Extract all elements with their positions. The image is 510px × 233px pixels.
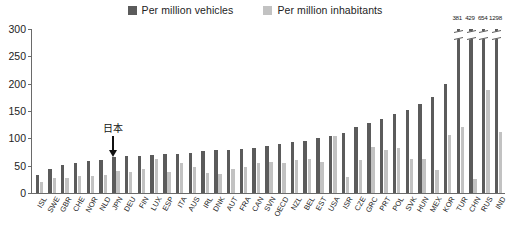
bar-vehicles xyxy=(329,136,332,193)
bar-inhabitants xyxy=(359,160,362,193)
bar-vehicles xyxy=(278,144,281,193)
bar-inhabitants xyxy=(257,163,260,193)
bar-group xyxy=(97,29,110,193)
bar-vehicles xyxy=(252,148,255,193)
plot-area xyxy=(31,29,505,193)
axis-break-mark xyxy=(492,30,501,40)
y-axis-tick-label: 50 xyxy=(0,160,26,172)
y-axis-tick-label: 200 xyxy=(0,78,26,90)
bar-inhabitants xyxy=(244,167,247,193)
bar-group xyxy=(122,29,135,193)
x-axis-tick-label: NLD xyxy=(97,195,112,213)
bar-group xyxy=(237,29,250,193)
bar-inhabitants xyxy=(486,90,489,193)
bar-inhabitants xyxy=(193,167,196,193)
down-arrow-icon xyxy=(109,136,117,157)
overflow-value-label: 1298 xyxy=(485,14,507,21)
bar-group xyxy=(33,29,46,193)
bar-inhabitants xyxy=(116,171,119,193)
x-axis-tick-label: HUN xyxy=(415,195,431,214)
y-axis-tick-label: 300 xyxy=(0,23,26,35)
bar-inhabitants xyxy=(91,176,94,193)
bar-inhabitants xyxy=(346,177,349,193)
x-axis-tick-label: EST xyxy=(314,195,329,212)
bar-inhabitants xyxy=(397,148,400,193)
bar-group xyxy=(416,29,429,193)
bar-group xyxy=(492,29,505,193)
bar-vehicles xyxy=(495,29,498,193)
bar-group xyxy=(71,29,84,193)
x-axis-tick-label: PRT xyxy=(378,195,393,212)
x-axis-tick-label: RUS xyxy=(479,195,495,213)
bar-vehicles xyxy=(469,29,472,193)
bar-group xyxy=(199,29,212,193)
bar-vehicles xyxy=(150,155,153,193)
bar-vehicles xyxy=(354,127,357,193)
bar-vehicles xyxy=(265,146,268,193)
bar-vehicles xyxy=(482,29,485,193)
bar-inhabitants xyxy=(65,178,68,193)
bar-vehicles xyxy=(316,138,319,193)
x-axis-tick-label: BEL xyxy=(302,195,317,212)
bar-inhabitants xyxy=(269,162,272,193)
legend-label-vehicles: Per million vehicles xyxy=(142,4,234,16)
bar-inhabitants xyxy=(473,179,476,193)
axis-break-mark xyxy=(467,30,476,40)
bar-vehicles xyxy=(189,153,192,193)
bar-group xyxy=(250,29,263,193)
bar-vehicles xyxy=(36,175,39,193)
bar-vehicles xyxy=(457,29,460,193)
bar-group xyxy=(186,29,199,193)
x-axis-tick-label: NOR xyxy=(83,195,99,214)
bar-group xyxy=(288,29,301,193)
bar-inhabitants xyxy=(384,150,387,193)
legend-item-vehicles: Per million vehicles xyxy=(128,4,234,16)
bar-group xyxy=(46,29,59,193)
bar-group xyxy=(59,29,72,193)
bar-vehicles xyxy=(48,169,51,193)
legend-item-inhabitants: Per million inhabitants xyxy=(263,4,382,16)
x-axis-tick-label: ESP xyxy=(161,195,176,213)
x-axis-tick-label: DEU xyxy=(122,195,138,213)
x-axis-tick-label: LUX xyxy=(148,195,163,212)
bar-inhabitants xyxy=(78,176,81,193)
bar-group xyxy=(275,29,288,193)
y-axis-tick-label: 150 xyxy=(0,105,26,117)
bar-vehicles xyxy=(418,104,421,193)
bar-vehicles xyxy=(138,156,141,193)
bar-group xyxy=(479,29,492,193)
bar-inhabitants xyxy=(218,174,221,193)
bar-inhabitants xyxy=(155,159,158,193)
bar-group xyxy=(441,29,454,193)
bar-vehicles xyxy=(367,123,370,193)
bar-group xyxy=(403,29,416,193)
bar-inhabitants xyxy=(167,172,170,193)
bar-group xyxy=(314,29,327,193)
bar-inhabitants xyxy=(231,169,234,193)
bar-group xyxy=(173,29,186,193)
y-axis-tick-label: 100 xyxy=(0,132,26,144)
x-axis-tick-label: USA xyxy=(326,195,342,213)
bar-group xyxy=(339,29,352,193)
bar-vehicles xyxy=(74,163,77,193)
x-axis-tick-label: FRA xyxy=(237,195,252,213)
bar-vehicles xyxy=(227,150,230,193)
bar-vehicles xyxy=(240,149,243,193)
bar-vehicles xyxy=(291,142,294,193)
bar-inhabitants xyxy=(461,127,464,193)
bar-vehicles xyxy=(201,151,204,193)
chart-legend: Per million vehicles Per million inhabit… xyxy=(0,2,510,18)
x-axis-tick-label: TUR xyxy=(454,195,470,213)
x-axis-tick-label: NZL xyxy=(289,195,304,212)
x-axis-tick-label: IND xyxy=(494,195,508,211)
bar-inhabitants xyxy=(448,135,451,193)
bar-group xyxy=(135,29,148,193)
x-axis-labels: ISLSWEGBRCHENORNLDJPNDEUFINLUXESPITAAUSI… xyxy=(31,195,505,233)
bar-inhabitants xyxy=(53,178,56,193)
bar-inhabitants xyxy=(308,159,311,193)
bar-vehicles xyxy=(176,154,179,193)
bar-group xyxy=(326,29,339,193)
square-swatch-icon xyxy=(263,6,272,15)
x-axis-tick-label: AUS xyxy=(186,195,202,213)
bar-series-container xyxy=(32,29,505,193)
